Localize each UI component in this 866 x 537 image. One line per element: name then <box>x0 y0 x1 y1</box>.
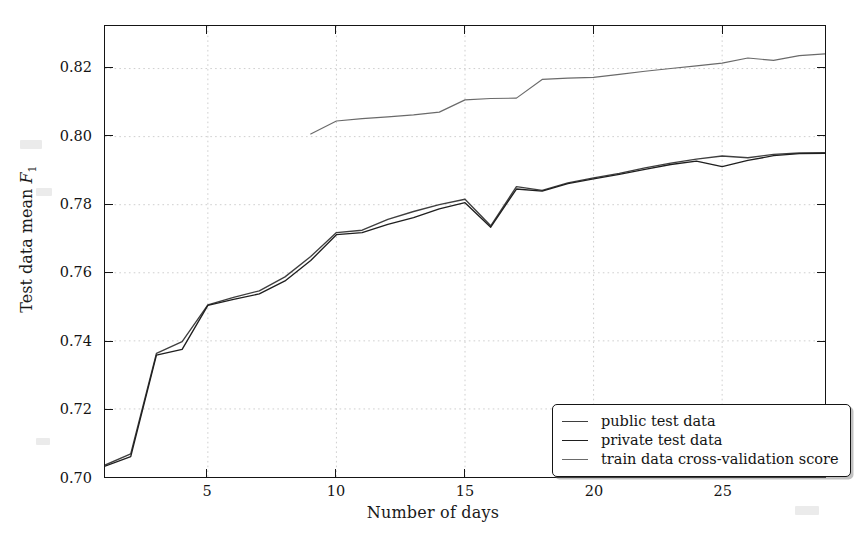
y-axis-tick <box>817 67 826 68</box>
x-axis-tick <box>206 25 207 34</box>
y-axis-tick-label: 0.82 <box>40 60 92 75</box>
y-axis-label: Test data mean F1 <box>17 79 39 399</box>
y-axis-tick <box>104 341 113 342</box>
legend-item-label: public test data <box>601 414 716 429</box>
x-axis-tick-label: 10 <box>316 484 356 499</box>
y-axis-tick-label: 0.74 <box>40 334 92 349</box>
y-axis-tick-label: 0.70 <box>40 471 92 486</box>
y-axis-tick-label: 0.78 <box>40 197 92 212</box>
chart-figure: Test data mean F1 Number of days 0.700.7… <box>0 0 866 537</box>
legend-item-label: private test data <box>601 433 722 448</box>
y-axis-tick-label: 0.80 <box>40 129 92 144</box>
legend-line-swatch <box>562 421 588 422</box>
series-line <box>311 54 825 134</box>
y-axis-tick-label: 0.72 <box>40 402 92 417</box>
x-axis-tick-label: 15 <box>445 484 485 499</box>
y-axis-tick <box>817 477 826 478</box>
x-axis-tick <box>206 469 207 478</box>
legend-item[interactable]: train data cross-validation score <box>562 450 839 469</box>
x-axis-tick <box>464 469 465 478</box>
y-axis-label-text: Test data mean <box>17 184 36 313</box>
y-axis-tick <box>817 341 826 342</box>
legend-item-label: train data cross-validation score <box>601 452 839 467</box>
y-axis-tick <box>817 135 826 136</box>
x-axis-tick <box>335 469 336 478</box>
y-axis-tick <box>817 204 826 205</box>
x-axis-tick-label: 20 <box>574 484 614 499</box>
legend-line-swatch <box>562 440 588 441</box>
x-axis-tick <box>722 25 723 34</box>
legend: public test dataprivate test datatrain d… <box>552 404 851 477</box>
x-axis-tick <box>335 25 336 34</box>
x-axis-tick <box>593 25 594 34</box>
y-axis-tick-label: 0.76 <box>40 265 92 280</box>
x-axis-label: Number of days <box>0 503 866 522</box>
legend-item[interactable]: public test data <box>562 412 839 431</box>
legend-line-swatch <box>562 459 588 460</box>
y-axis-label-symbol: F1 <box>17 166 36 184</box>
y-axis-tick <box>104 204 113 205</box>
y-axis-tick <box>817 272 826 273</box>
scan-artifact <box>36 438 50 445</box>
y-axis-tick <box>104 477 113 478</box>
x-axis-tick <box>464 25 465 34</box>
y-axis-tick <box>104 135 113 136</box>
legend-item[interactable]: private test data <box>562 431 839 450</box>
x-axis-tick-label: 25 <box>703 484 743 499</box>
y-axis-tick <box>104 409 113 410</box>
y-axis-tick <box>104 272 113 273</box>
x-axis-tick-label: 5 <box>187 484 227 499</box>
y-axis-tick <box>104 67 113 68</box>
